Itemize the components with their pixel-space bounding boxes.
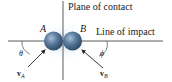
velocity-a-arrow bbox=[28, 50, 45, 67]
ball-b bbox=[63, 32, 82, 51]
velocity-b-label: vB bbox=[100, 69, 108, 79]
velocity-a-label: vA bbox=[17, 69, 25, 79]
theta-arc bbox=[22, 41, 30, 54]
phi-label: ϕ bbox=[100, 49, 104, 58]
ball-a-label: A bbox=[39, 23, 47, 34]
line-of-impact-label: Line of impact bbox=[96, 26, 155, 37]
theta-label: θ bbox=[19, 49, 23, 58]
ball-b-label: B bbox=[80, 23, 86, 34]
ball-a bbox=[44, 32, 63, 51]
plane-of-contact-label: Plane of contact bbox=[68, 1, 133, 12]
impact-diagram: Plane of contact Line of impact A B θ ϕ … bbox=[0, 0, 172, 82]
